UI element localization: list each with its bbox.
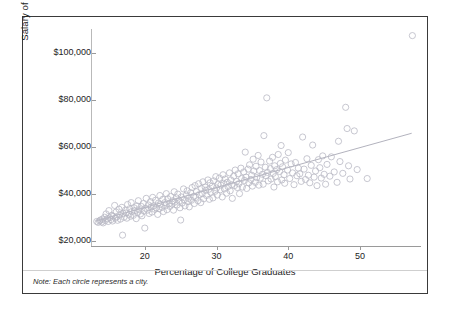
scatter-point bbox=[311, 174, 317, 180]
scatter-point bbox=[347, 176, 353, 182]
scatter-point bbox=[337, 158, 343, 164]
scatter-point bbox=[314, 183, 320, 189]
scatter-point bbox=[180, 186, 186, 192]
scatter-point bbox=[351, 128, 357, 134]
figure-note: Note: Each circle represents a city. bbox=[33, 277, 148, 286]
x-axis-line bbox=[91, 246, 421, 247]
scatter-point bbox=[278, 142, 284, 148]
scatter-point bbox=[345, 163, 351, 169]
scatter-point bbox=[255, 152, 261, 158]
scatter-plot-svg bbox=[91, 29, 421, 246]
scatter-point bbox=[275, 151, 281, 157]
scatter-point bbox=[226, 170, 232, 176]
scatter-point bbox=[354, 166, 360, 172]
scatter-point bbox=[301, 166, 307, 172]
scatter-point bbox=[210, 195, 216, 201]
x-tick-mark bbox=[288, 246, 289, 250]
scatter-point bbox=[289, 170, 295, 176]
scatter-point bbox=[308, 162, 314, 168]
scatter-point bbox=[287, 175, 293, 181]
scatter-point bbox=[142, 225, 148, 231]
y-axis-tick-labels: $20,000$40,000$60,000$80,000$100,000 bbox=[31, 17, 91, 293]
scatter-point bbox=[322, 181, 328, 187]
scatter-point bbox=[310, 142, 316, 148]
scatter-point bbox=[328, 154, 334, 160]
scatter-point bbox=[317, 165, 323, 171]
scatter-point bbox=[291, 182, 297, 188]
scatter-point bbox=[295, 165, 301, 171]
scatter-point bbox=[292, 159, 298, 165]
scatter-point bbox=[335, 138, 341, 144]
scatter-point bbox=[282, 157, 288, 163]
scatter-point bbox=[307, 180, 313, 186]
scatter-point bbox=[258, 159, 264, 165]
scatter-point bbox=[288, 161, 294, 167]
scatter-point bbox=[272, 163, 278, 169]
scatter-point bbox=[312, 168, 318, 174]
scatter-point bbox=[305, 172, 311, 178]
scatter-point bbox=[229, 195, 235, 201]
x-tick-label: 20 bbox=[125, 251, 165, 261]
scatter-point bbox=[340, 170, 346, 176]
scatter-point bbox=[245, 166, 251, 172]
plot-area bbox=[91, 29, 421, 246]
y-axis-title: Salary of High School Graduates bbox=[18, 0, 32, 55]
scatter-point bbox=[300, 134, 306, 140]
x-tick-mark bbox=[360, 246, 361, 250]
y-tick-label: $80,000 bbox=[33, 94, 91, 104]
scatter-point bbox=[304, 156, 310, 162]
scatter-point bbox=[261, 133, 267, 139]
scatter-point bbox=[264, 95, 270, 101]
x-tick-label: 30 bbox=[197, 251, 237, 261]
scatter-point bbox=[344, 125, 350, 131]
scatter-point bbox=[155, 211, 161, 217]
scatter-point bbox=[285, 150, 291, 156]
scatter-point bbox=[364, 175, 370, 181]
scatter-point bbox=[257, 175, 263, 181]
x-tick-label: 50 bbox=[340, 251, 380, 261]
scatter-point bbox=[246, 162, 252, 168]
y-tick-label: $20,000 bbox=[33, 235, 91, 245]
scatter-point bbox=[119, 232, 125, 238]
scatter-point bbox=[242, 149, 248, 155]
y-tick-label: $100,000 bbox=[33, 47, 91, 57]
scatter-point bbox=[160, 208, 166, 214]
scatter-point bbox=[343, 104, 349, 110]
y-tick-label: $40,000 bbox=[33, 188, 91, 198]
x-tick-label: 40 bbox=[268, 251, 308, 261]
x-axis-title: Percentage of College Graduates bbox=[23, 266, 427, 277]
y-tick-label: $60,000 bbox=[33, 141, 91, 151]
chart-figure: Salary of High School Graduates $20,000$… bbox=[22, 16, 428, 294]
note-divider bbox=[23, 270, 427, 271]
x-tick-mark bbox=[145, 246, 146, 250]
scatter-point bbox=[331, 169, 337, 175]
scatter-point bbox=[334, 179, 340, 185]
scatter-point bbox=[324, 161, 330, 167]
scatter-point bbox=[143, 195, 149, 201]
scatter-point bbox=[178, 217, 184, 223]
scatter-point bbox=[409, 33, 415, 39]
x-tick-mark bbox=[217, 246, 218, 250]
scatter-point bbox=[236, 191, 242, 197]
scatter-point bbox=[216, 175, 222, 181]
scatter-point bbox=[112, 202, 118, 208]
